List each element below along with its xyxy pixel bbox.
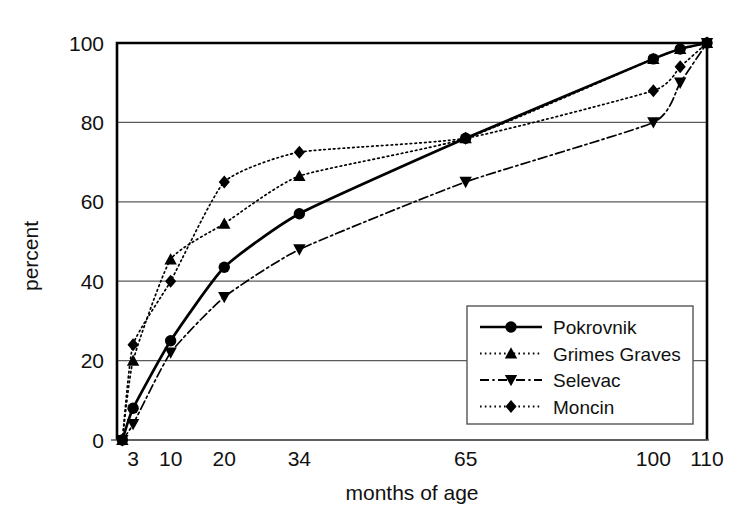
x-tick-label-100: 100 xyxy=(636,447,671,470)
chart-canvas: 020406080100 310203465100110 percent mon… xyxy=(0,0,736,524)
legend-label-grimes-graves: Grimes Graves xyxy=(553,344,681,365)
x-tick-label-110: 110 xyxy=(690,447,723,470)
legend-label-moncin: Moncin xyxy=(553,397,614,418)
y-tick-label-60: 60 xyxy=(81,190,104,213)
y-tick-label-80: 80 xyxy=(81,111,104,134)
data-point-0-1 xyxy=(127,403,138,414)
x-tick-label-20: 20 xyxy=(213,447,236,470)
x-tick-label-3: 3 xyxy=(127,447,139,470)
legend-label-selevac: Selevac xyxy=(553,370,621,391)
y-tick-label-20: 20 xyxy=(81,349,104,372)
data-point-0-3 xyxy=(219,262,230,273)
legend[interactable]: PokrovnikGrimes GravesSelevacMoncin xyxy=(467,306,693,424)
y-tick-label-0: 0 xyxy=(92,429,104,452)
y-tick-label-40: 40 xyxy=(81,270,104,293)
x-axis-title: months of age xyxy=(345,481,478,504)
x-tick-label-65: 65 xyxy=(454,447,477,470)
legend-label-pokrovnik: Pokrovnik xyxy=(553,317,637,338)
y-axis-title: percent xyxy=(19,221,42,291)
legend-marker-pokrovnik xyxy=(505,321,516,332)
chart-background xyxy=(0,0,736,524)
data-point-0-4 xyxy=(294,208,305,219)
data-point-0-2 xyxy=(165,335,176,346)
x-tick-label-10: 10 xyxy=(159,447,182,470)
y-tick-label-100: 100 xyxy=(69,32,104,55)
line-chart: 020406080100 310203465100110 percent mon… xyxy=(0,0,736,524)
x-tick-label-34: 34 xyxy=(288,447,312,470)
